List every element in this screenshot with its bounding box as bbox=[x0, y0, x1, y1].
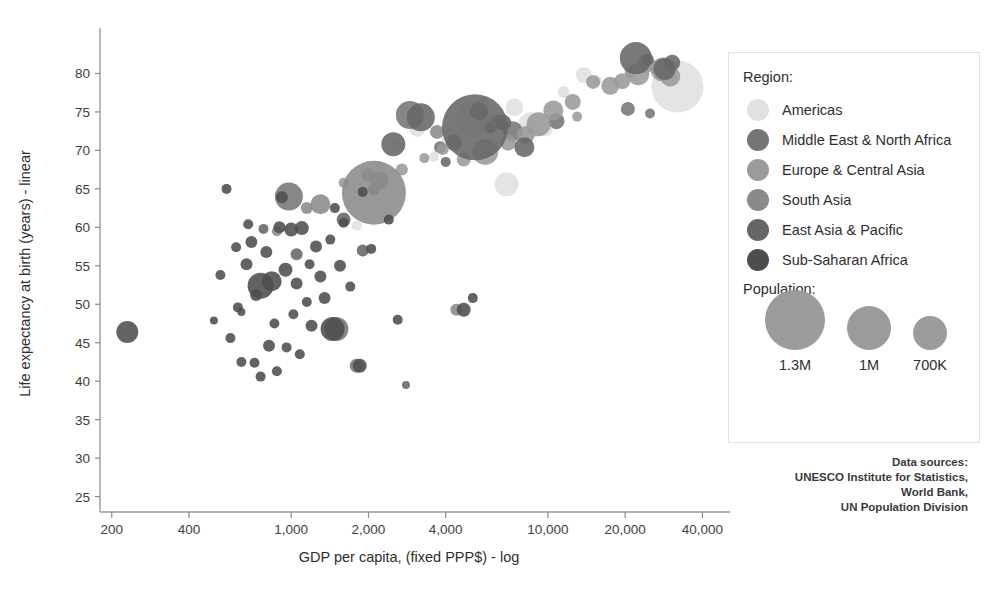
data-bubble[interactable] bbox=[245, 236, 257, 248]
data-bubble[interactable] bbox=[407, 103, 435, 131]
data-bubble[interactable] bbox=[231, 242, 241, 252]
data-bubble[interactable] bbox=[586, 75, 600, 89]
data-bubble[interactable] bbox=[256, 372, 266, 382]
data-bubble[interactable] bbox=[419, 153, 429, 163]
data-bubble[interactable] bbox=[276, 191, 288, 203]
data-bubble[interactable] bbox=[222, 184, 232, 194]
x-axis-tick-label: 4,000 bbox=[429, 522, 463, 537]
data-bubble[interactable] bbox=[342, 161, 406, 225]
data-bubble[interactable] bbox=[514, 137, 534, 157]
legend-region-row[interactable]: South Asia bbox=[747, 185, 979, 215]
data-bubble[interactable] bbox=[279, 263, 293, 277]
data-bubble[interactable] bbox=[381, 132, 405, 156]
y-axis-tick-label: 30 bbox=[75, 451, 90, 466]
population-size-label: 1.3M bbox=[779, 357, 811, 373]
x-axis-tick-label: 400 bbox=[178, 522, 201, 537]
data-bubble[interactable] bbox=[272, 366, 282, 376]
data-bubble[interactable] bbox=[495, 115, 511, 131]
data-bubble[interactable] bbox=[291, 248, 303, 260]
x-axis-tick-label: 1,000 bbox=[274, 522, 308, 537]
data-bubble[interactable] bbox=[565, 94, 581, 110]
data-bubble[interactable] bbox=[353, 359, 367, 373]
data-bubble[interactable] bbox=[282, 342, 292, 352]
data-bubble[interactable] bbox=[505, 98, 523, 116]
legend-region-label: South Asia bbox=[782, 192, 851, 208]
data-source-line: UN Population Division bbox=[728, 500, 968, 515]
data-bubble[interactable] bbox=[259, 224, 269, 234]
data-bubble[interactable] bbox=[314, 271, 326, 283]
population-bubble bbox=[913, 316, 947, 350]
data-bubble[interactable] bbox=[306, 320, 318, 332]
data-bubble[interactable] bbox=[243, 219, 253, 229]
data-bubble[interactable] bbox=[295, 349, 305, 359]
data-bubble[interactable] bbox=[642, 54, 654, 66]
data-bubble[interactable] bbox=[334, 260, 346, 272]
data-bubble[interactable] bbox=[345, 282, 355, 292]
data-bubble[interactable] bbox=[236, 357, 246, 367]
data-bubble[interactable] bbox=[310, 241, 322, 253]
data-bubble[interactable] bbox=[262, 271, 282, 291]
data-bubble[interactable] bbox=[237, 308, 245, 316]
x-axis-tick-label: 200 bbox=[100, 522, 123, 537]
population-bubble bbox=[847, 306, 891, 350]
data-bubble[interactable] bbox=[302, 297, 312, 307]
data-bubble[interactable] bbox=[215, 270, 225, 280]
data-bubble[interactable] bbox=[601, 77, 619, 95]
y-axis-tick-label: 75 bbox=[75, 105, 90, 120]
data-bubble[interactable] bbox=[468, 293, 478, 303]
data-bubble[interactable] bbox=[241, 258, 253, 270]
data-bubble[interactable] bbox=[225, 333, 235, 343]
legend-region-row[interactable]: Europe & Central Asia bbox=[747, 155, 979, 185]
legend-color-swatch bbox=[747, 129, 769, 151]
data-bubble[interactable] bbox=[430, 125, 444, 139]
data-bubble[interactable] bbox=[310, 194, 330, 214]
legend-color-swatch bbox=[747, 99, 769, 121]
data-bubble[interactable] bbox=[250, 358, 260, 368]
data-bubble[interactable] bbox=[370, 171, 388, 189]
data-bubble[interactable] bbox=[339, 218, 349, 228]
data-bubble[interactable] bbox=[358, 187, 368, 197]
x-axis-title: GDP per capita, (fixed PPP$) - log bbox=[299, 549, 520, 565]
data-bubble[interactable] bbox=[352, 221, 362, 231]
population-legend-item: 700K bbox=[913, 316, 947, 373]
data-bubble[interactable] bbox=[402, 381, 410, 389]
data-bubble[interactable] bbox=[273, 221, 285, 233]
data-bubble[interactable] bbox=[366, 244, 376, 254]
legend-color-swatch bbox=[747, 189, 769, 211]
legend-color-swatch bbox=[747, 159, 769, 181]
data-bubble[interactable] bbox=[295, 221, 309, 235]
data-bubble[interactable] bbox=[301, 202, 313, 214]
data-bubble[interactable] bbox=[263, 340, 275, 352]
data-bubble[interactable] bbox=[116, 321, 138, 343]
data-source-line: UNESCO Institute for Statistics, bbox=[728, 470, 968, 485]
population-legend-item: 1M bbox=[847, 306, 891, 373]
x-axis-tick-label: 20,000 bbox=[604, 522, 645, 537]
data-bubble[interactable] bbox=[441, 157, 451, 167]
data-bubble[interactable] bbox=[393, 315, 403, 325]
data-bubble[interactable] bbox=[384, 215, 394, 225]
data-bubble[interactable] bbox=[321, 317, 345, 341]
legend-region-row[interactable]: Sub-Saharan Africa bbox=[747, 245, 979, 275]
data-bubble[interactable] bbox=[572, 112, 582, 122]
data-bubble[interactable] bbox=[495, 172, 519, 196]
data-bubble[interactable] bbox=[325, 235, 335, 245]
data-bubble[interactable] bbox=[457, 303, 471, 317]
data-bubble[interactable] bbox=[305, 259, 315, 269]
data-bubble[interactable] bbox=[250, 289, 262, 301]
data-bubble[interactable] bbox=[621, 102, 635, 116]
legend-region-row[interactable]: Middle East & North Africa bbox=[747, 125, 979, 155]
legend-region-row[interactable]: Americas bbox=[747, 95, 979, 125]
population-size-label: 700K bbox=[913, 357, 947, 373]
data-bubble[interactable] bbox=[319, 292, 331, 304]
data-bubble[interactable] bbox=[330, 203, 340, 213]
data-bubble[interactable] bbox=[664, 55, 680, 71]
data-bubble[interactable] bbox=[260, 246, 272, 258]
data-bubble[interactable] bbox=[429, 152, 439, 162]
data-bubble[interactable] bbox=[291, 278, 303, 290]
legend-region-row[interactable]: East Asia & Pacific bbox=[747, 215, 979, 245]
data-bubble[interactable] bbox=[210, 316, 218, 324]
data-bubble[interactable] bbox=[288, 309, 298, 319]
data-bubble[interactable] bbox=[645, 109, 655, 119]
y-axis-tick-label: 70 bbox=[75, 143, 90, 158]
data-bubble[interactable] bbox=[269, 319, 279, 329]
